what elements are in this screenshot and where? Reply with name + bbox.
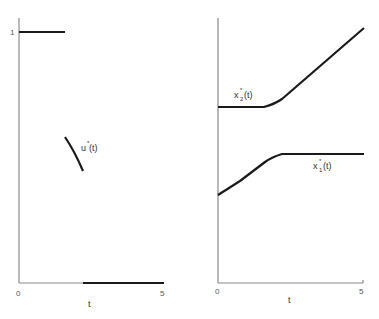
x2-label: x * 2 (t) — [234, 87, 253, 102]
svg-text:u: u — [81, 143, 86, 153]
left-ytick-1: 1 — [10, 28, 15, 37]
x1-curve — [218, 154, 364, 195]
right-chart: 0 5 t x * 2 (t) x * 1 (t) — [215, 18, 364, 305]
right-xtick-0: 0 — [215, 287, 220, 296]
left-xtick-0: 0 — [16, 289, 21, 298]
svg-text:*: * — [319, 158, 322, 164]
svg-text:x: x — [313, 161, 318, 171]
right-x-label: t — [288, 295, 291, 305]
svg-text:(t): (t) — [89, 143, 98, 153]
left-x-label: t — [88, 299, 91, 309]
u-label: u * (t) — [81, 140, 98, 153]
right-xtick-5: 5 — [359, 287, 364, 296]
svg-text:(t): (t) — [323, 161, 332, 171]
left-xtick-5: 5 — [160, 289, 165, 298]
svg-text:*: * — [240, 87, 243, 93]
left-chart: 1 0 5 t u * (t) — [10, 18, 165, 309]
x1-label: x * 1 (t) — [313, 158, 332, 173]
svg-text:x: x — [234, 90, 239, 100]
svg-text:(t): (t) — [244, 90, 253, 100]
charts-canvas: 1 0 5 t u * (t) 0 5 t x * 2 (t) x * 1 — [0, 0, 379, 319]
